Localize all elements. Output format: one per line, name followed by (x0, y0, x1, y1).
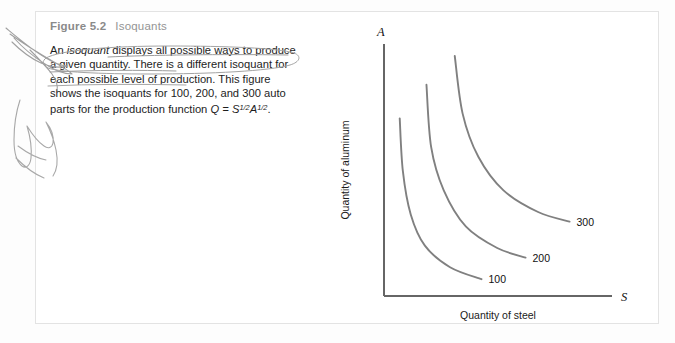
figure-panel: Figure 5.2Isoquants An isoquant displays… (35, 11, 659, 324)
isoquant-label-100: 100 (489, 273, 507, 285)
figure-caption: An isoquant displays all possible ways t… (50, 43, 298, 116)
y-axis-title: Quantity of aluminum (339, 120, 351, 219)
caption-text-lead: An (50, 44, 67, 56)
formula-q: Q (210, 103, 219, 115)
figure-name: Isoquants (115, 20, 167, 32)
y-axis-symbol: A (376, 25, 385, 39)
formula-s-exponent: 1/2 (239, 103, 249, 112)
figure-title: Figure 5.2Isoquants (50, 20, 315, 32)
isoquant-label-200: 200 (533, 252, 551, 264)
isoquant-curves (400, 56, 570, 279)
x-axis-symbol: S (621, 290, 628, 304)
chart-svg: A S Quantity of aluminum Quantity of ste… (321, 16, 651, 321)
isoquant-curve-100 (400, 118, 482, 279)
caption-term-isoquant: isoquant (67, 44, 109, 56)
formula-a-exponent: 1/2 (257, 103, 267, 112)
x-axis-title: Quantity of steel (460, 309, 536, 321)
isoquant-curve-200 (426, 85, 525, 258)
formula-a: A (250, 103, 257, 115)
isoquant-label-300: 300 (577, 216, 595, 228)
formula-equals: = (219, 103, 232, 115)
caption-period: . (267, 103, 270, 115)
isoquant-chart: A S Quantity of aluminum Quantity of ste… (321, 16, 651, 321)
isoquant-curve-300 (455, 56, 570, 222)
figure-text-column: Figure 5.2Isoquants An isoquant displays… (50, 20, 315, 116)
production-function-formula: Q = S1/2A1/2 (210, 103, 267, 115)
figure-number: Figure 5.2 (50, 20, 106, 32)
